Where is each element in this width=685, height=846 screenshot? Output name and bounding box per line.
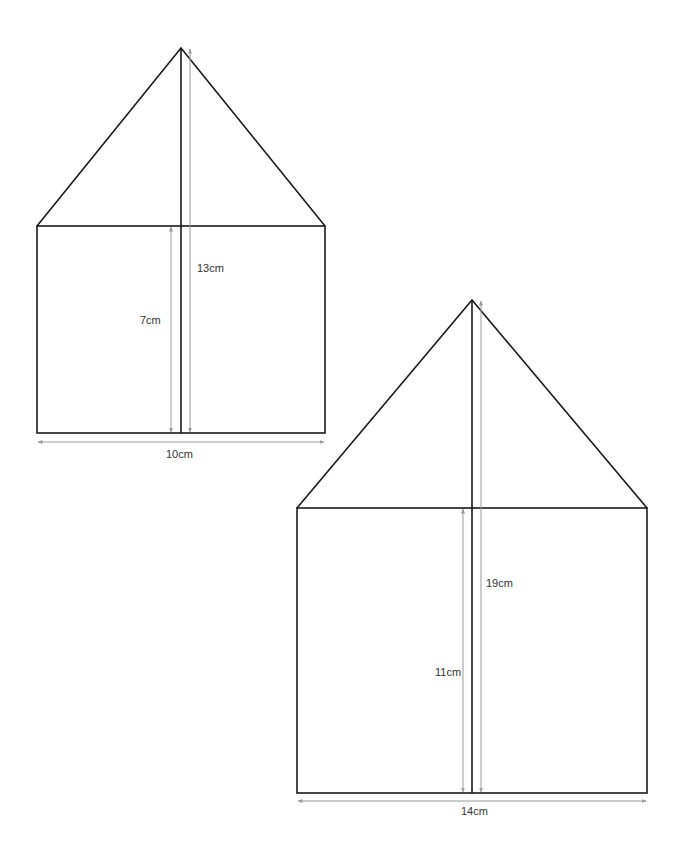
small-house-wall-height-label: 7cm	[140, 314, 161, 326]
diagram-canvas: 13cm 7cm 10cm 19cm 11cm 14cm	[0, 0, 685, 846]
small-house-figure: 13cm 7cm 10cm	[37, 48, 325, 460]
large-house-wall-height-label: 11cm	[435, 666, 461, 678]
large-house-width-label: 14cm	[461, 805, 488, 817]
small-house-width-label: 10cm	[166, 448, 193, 460]
small-house-total-height-label: 13cm	[197, 262, 224, 274]
large-house-total-height-label: 19cm	[486, 577, 513, 589]
large-house-figure: 19cm 11cm 14cm	[297, 300, 647, 817]
